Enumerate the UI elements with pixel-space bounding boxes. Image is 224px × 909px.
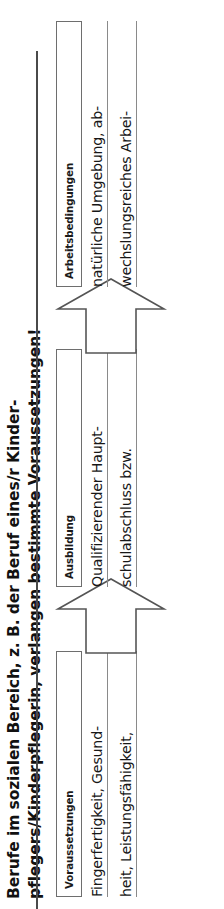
column-header-label: Voraussetzungen [64,790,75,889]
body-line: natürliche Umgebung, ab- [90,21,108,287]
arrow-right-icon [52,577,170,655]
column-body-text: Fingerfertigkeit, Gesund- heit, Leistung… [90,651,137,897]
diagram-column-arbeitsbedingungen: Arbeitsbedingungen natürliche Umgebung, … [56,21,196,287]
diagram-column-ausbildung: Ausbildung Qualifizierender Haupt- schul… [56,349,196,587]
arrow-right-icon [52,277,170,355]
body-line: Qualifizierender Haupt- [90,349,108,587]
column-body-text: natürliche Umgebung, ab- wechslungsreich… [90,21,137,287]
column-body-text: Qualifizierender Haupt- schulabschluss b… [90,349,137,587]
body-line: heit, Leistungsfähigkeit, [119,651,137,897]
horizontal-divider [36,51,38,909]
column-header-box: Arbeitsbedingungen [56,21,82,287]
column-header-label: Arbeitsbedingungen [64,163,75,279]
column-header-box: Voraussetzungen [56,651,82,897]
column-header-label: Ausbildung [64,515,75,579]
column-header-box: Ausbildung [56,349,82,587]
rotated-page-canvas: Berufe im sozialen Bereich, z. B. der Be… [0,0,224,909]
body-line: wechslungsreiches Arbei- [119,21,137,287]
body-line: schulabschluss bzw. [119,349,137,587]
page-title-line-1: Berufe im sozialen Bereich, z. B. der Be… [4,19,24,899]
body-line: Fingerfertigkeit, Gesund- [90,651,108,897]
diagram-column-voraussetzungen: Voraussetzungen Fingerfertigkeit, Gesund… [56,651,196,897]
process-flow-diagram: Voraussetzungen Fingerfertigkeit, Gesund… [56,0,224,909]
page-title: Berufe im sozialen Bereich, z. B. der Be… [4,19,45,899]
document-page: Berufe im sozialen Bereich, z. B. der Be… [0,0,224,909]
